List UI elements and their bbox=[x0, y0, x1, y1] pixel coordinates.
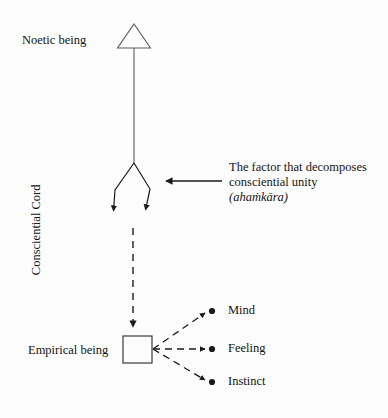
branch-arrow-mind bbox=[153, 313, 205, 349]
output-label-mind: Mind bbox=[228, 303, 255, 319]
fork-branch-left bbox=[114, 163, 135, 211]
mind-dot-icon bbox=[209, 308, 215, 314]
noetic-being-label: Noetic being bbox=[22, 33, 86, 49]
annotation-line-2: consciential unity bbox=[229, 175, 387, 190]
branch-arrow-instinct bbox=[153, 349, 205, 380]
diagram-canvas: Noetic being Consciential Cord Empirical… bbox=[0, 0, 388, 418]
noetic-being-triangle-icon bbox=[118, 24, 151, 48]
annotation-line-3-sanskrit: (ahaṁkāra) bbox=[229, 190, 387, 205]
feeling-dot-icon bbox=[209, 346, 215, 352]
fork-branch-right bbox=[134, 163, 150, 210]
annotation-text-block: The factor that decomposes consciential … bbox=[229, 160, 387, 206]
consciential-cord-label: Consciential Cord bbox=[29, 171, 45, 289]
output-label-instinct: Instinct bbox=[228, 374, 266, 390]
empirical-being-label: Empirical being bbox=[28, 343, 108, 359]
annotation-line-1: The factor that decomposes bbox=[229, 160, 387, 175]
output-label-feeling: Feeling bbox=[228, 341, 266, 357]
instinct-dot-icon bbox=[209, 379, 215, 385]
empirical-being-square-icon bbox=[123, 336, 152, 363]
